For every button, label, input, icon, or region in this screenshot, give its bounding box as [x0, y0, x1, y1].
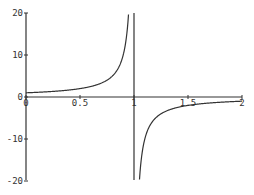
curve-left-branch: [26, 15, 129, 93]
x-tick-label: 0: [23, 98, 28, 108]
y-tick-label: -20: [7, 176, 23, 186]
y-tick-label: -10: [7, 134, 23, 144]
x-tick-label: 1: [131, 98, 136, 108]
x-tick-label: 0.5: [72, 98, 88, 108]
y-tick-label: 0: [18, 92, 23, 102]
y-tick-label: 10: [12, 50, 23, 60]
x-tick-label: 2: [239, 98, 244, 108]
x-tick-label: 1.5: [180, 98, 196, 108]
axes: [24, 13, 242, 181]
curve-right-branch: [140, 101, 243, 179]
y-tick-label: 20: [12, 8, 23, 18]
chart-plot: 00.511.52-20-1001020: [0, 0, 254, 195]
